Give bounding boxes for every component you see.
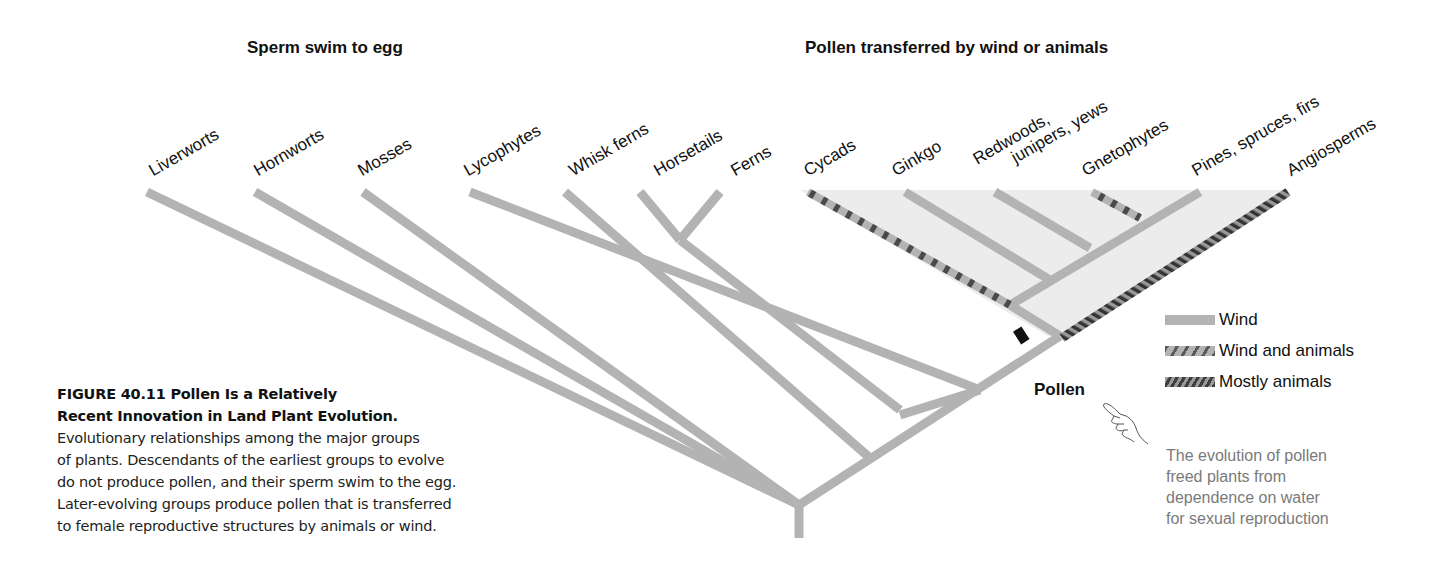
header-pollen-transferred: Pollen transferred by wind or animals (805, 38, 1108, 58)
legend: Wind Wind and animals Mostly animals (1165, 304, 1354, 397)
annotation-line: dependence on water (1166, 487, 1426, 508)
header-sperm-swim: Sperm swim to egg (247, 38, 403, 58)
legend-item-mostly-animals: Mostly animals (1165, 366, 1354, 397)
legend-item-wind-and-animals: Wind and animals (1165, 335, 1354, 366)
pollen-label: Pollen (1034, 380, 1085, 400)
figure-caption: FIGURE 40.11 Pollen Is a Relatively Rece… (57, 383, 577, 537)
legend-item-wind: Wind (1165, 304, 1354, 335)
legend-label: Wind and animals (1219, 341, 1354, 361)
branch-ferns (680, 192, 720, 240)
caption-body-line: do not produce pollen, and their sperm s… (57, 471, 577, 493)
caption-body-line: Evolutionary relationships among the maj… (57, 427, 577, 449)
caption-body-line: to female reproductive structures by ani… (57, 515, 577, 537)
pointing-hand-icon (1100, 398, 1160, 448)
pollen-marker (1013, 326, 1030, 344)
legend-label: Wind (1219, 310, 1258, 330)
annotation-line: for sexual reproduction (1166, 508, 1426, 529)
branch-horsetails (640, 192, 680, 240)
caption-body-line: Later-evolving groups produce pollen tha… (57, 493, 577, 515)
wind-and-animals-swatch-icon (1165, 346, 1215, 356)
annotation-line: freed plants from (1166, 466, 1426, 487)
caption-body-line: of plants. Descendants of the earliest g… (57, 449, 577, 471)
wind-swatch-icon (1165, 315, 1215, 325)
pollen-annotation: The evolution of pollen freed plants fro… (1166, 445, 1426, 529)
legend-label: Mostly animals (1219, 372, 1331, 392)
annotation-line: The evolution of pollen (1166, 445, 1426, 466)
caption-title-line: FIGURE 40.11 Pollen Is a Relatively (57, 383, 577, 405)
mostly-animals-swatch-icon (1165, 377, 1215, 387)
caption-title-line: Recent Innovation in Land Plant Evolutio… (57, 405, 577, 427)
